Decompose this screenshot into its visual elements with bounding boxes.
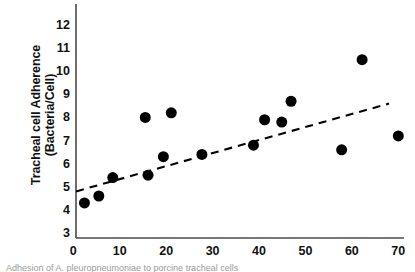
data-point <box>158 151 169 162</box>
data-point <box>140 112 151 123</box>
scatter-chart-figure: Tracheal cell Adherence (Bacteria/Cell) … <box>0 0 415 272</box>
data-point <box>248 140 259 151</box>
data-point <box>166 107 177 118</box>
plot-area <box>0 0 415 272</box>
data-points <box>79 54 404 208</box>
data-point <box>79 197 90 208</box>
data-point <box>93 191 104 202</box>
axes-lines <box>76 4 404 238</box>
data-point <box>336 144 347 155</box>
data-point <box>286 96 297 107</box>
data-point <box>196 149 207 160</box>
data-point <box>393 130 404 141</box>
data-point <box>357 54 368 65</box>
data-point <box>259 114 270 125</box>
data-point <box>107 172 118 183</box>
data-point <box>276 117 287 128</box>
data-point <box>143 170 154 181</box>
caption-sliver: Adhesion of A. pleuropneumoniae to porci… <box>6 263 306 272</box>
